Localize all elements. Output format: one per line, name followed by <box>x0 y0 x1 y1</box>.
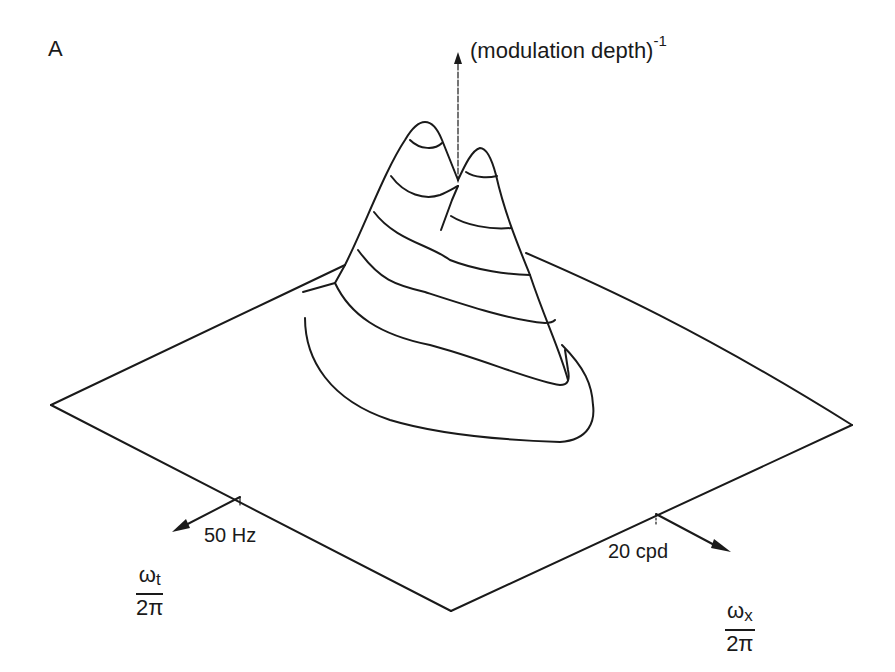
x-axis-label: ωx 2π <box>725 598 755 657</box>
x-axis-label-denominator: 2π <box>725 631 755 657</box>
panel-label: A <box>48 36 63 62</box>
t-axis-arrowhead-icon <box>172 519 190 532</box>
x-axis-tick-label: 20 cpd <box>608 540 668 563</box>
contour-1-left-cap <box>410 140 442 148</box>
t-axis-symbol: ω <box>139 562 156 587</box>
t-axis-label-denominator: 2π <box>136 595 163 621</box>
t-axis-subscript: t <box>156 570 161 589</box>
t-axis-label: ωt 2π <box>136 562 163 621</box>
contour-2 <box>391 176 458 197</box>
base-plane-back-left-edge <box>51 265 345 405</box>
x-axis-subscript: x <box>744 606 753 625</box>
base-plane-front-right-edge <box>451 425 852 611</box>
x-axis-symbol: ω <box>727 598 744 623</box>
t-axis-label-numerator: ωt <box>136 562 163 595</box>
t-axis-tick-label: 50 Hz <box>204 524 256 547</box>
x-axis-arrowhead-icon <box>711 539 731 552</box>
contour-6 <box>335 283 569 385</box>
z-axis-label-text: (modulation depth) <box>470 38 653 63</box>
base-plane-back-right-edge <box>526 253 852 425</box>
base-plane-front-left-edge <box>51 405 451 611</box>
contour-5 <box>358 250 555 323</box>
z-axis-label-exponent: -1 <box>653 32 666 49</box>
contour-1-right-cap <box>466 172 497 177</box>
x-axis-label-numerator: ωx <box>725 598 755 631</box>
z-axis-label: (modulation depth)-1 <box>470 36 667 64</box>
contour-4 <box>374 212 530 275</box>
z-axis-arrowhead-icon <box>454 52 462 64</box>
contour-3 <box>451 216 511 228</box>
contour-outer <box>305 318 593 442</box>
surface-plot <box>0 0 895 672</box>
